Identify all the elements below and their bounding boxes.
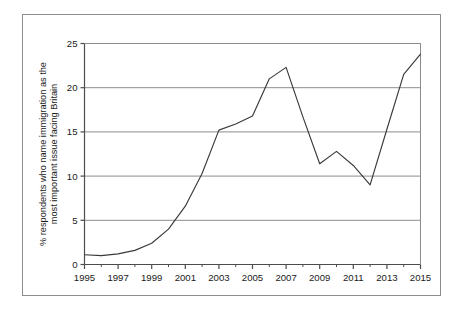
y-tick-label: 15 [67,126,78,137]
x-axis [85,265,421,270]
x-tick-label: 2003 [208,272,229,283]
data-line [85,54,421,256]
y-tick-label: 20 [67,82,78,93]
chart-figure: 0510152025 19951997199920012003200520072… [0,0,461,317]
y-tick-label: 0 [72,259,77,270]
x-tick-label: 2001 [175,272,196,283]
y-tick-labels: 0510152025 [67,38,78,270]
x-tick-label: 2009 [309,272,330,283]
y-axis-title: % respondents who name immigration as th… [38,62,59,246]
line-chart: 0510152025 19951997199920012003200520072… [0,0,461,317]
x-tick-labels: 1995199719992001200320052007200920112013… [74,272,431,283]
y-axis-title-line1: % respondents who name immigration as th… [38,62,48,246]
y-tick-label: 5 [72,215,77,226]
plot-border [85,44,421,265]
x-tick-label: 2007 [275,272,296,283]
x-tick-label: 2011 [343,272,364,283]
y-tick-label: 10 [67,171,78,182]
x-tick-label: 2013 [376,272,397,283]
x-tick-label: 2015 [410,272,431,283]
y-axis-title-line2: most important issue facing Britain [49,84,59,224]
y-tick-label: 25 [67,38,78,49]
y-axis [81,44,85,265]
x-tick-label: 1999 [141,272,162,283]
x-tick-label: 1995 [74,272,95,283]
gridlines [85,44,421,221]
data-series-line [85,54,421,256]
x-tick-label: 2005 [242,272,263,283]
x-tick-label: 1997 [107,272,128,283]
